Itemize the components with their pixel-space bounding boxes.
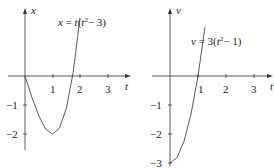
tick-label: 2 [77, 83, 83, 95]
t-axis-label: t [270, 80, 274, 92]
tick-label: −2 [150, 128, 162, 140]
equation-label: x = t(t2− 3) [57, 16, 106, 29]
tick-label: −3 [150, 157, 162, 168]
tick-label: 1 [50, 83, 56, 95]
x-axis-label: x [30, 4, 36, 16]
position-chart: 1 2 3 t −1 −2 x x = t(t2− 3) [6, 4, 131, 150]
t-axis-arrow-icon [267, 74, 273, 78]
v-axis-label: v [176, 4, 181, 16]
velocity-curve [170, 27, 205, 163]
tick-label: 3 [251, 83, 257, 95]
tick-label: 2 [223, 83, 229, 95]
t-axis-arrow-icon [125, 74, 131, 78]
tick-label: 3 [105, 83, 111, 95]
tick-label: 1 [198, 83, 204, 95]
tick-label: −1 [6, 99, 18, 111]
tick-label: −1 [150, 99, 162, 111]
x-axis-arrow-icon [23, 8, 27, 14]
equation-label: v = 3(t2− 1) [191, 35, 242, 48]
tick-label: −2 [6, 128, 18, 140]
v-axis-arrow-icon [168, 8, 172, 14]
velocity-chart: 1 2 3 t −1 −2 −3 v v = 3(t2− 1) [150, 4, 274, 168]
t-axis-label: t [125, 80, 129, 92]
figure: 1 2 3 t −1 −2 x x = t(t2− 3) 1 2 3 t −1 … [0, 0, 274, 168]
